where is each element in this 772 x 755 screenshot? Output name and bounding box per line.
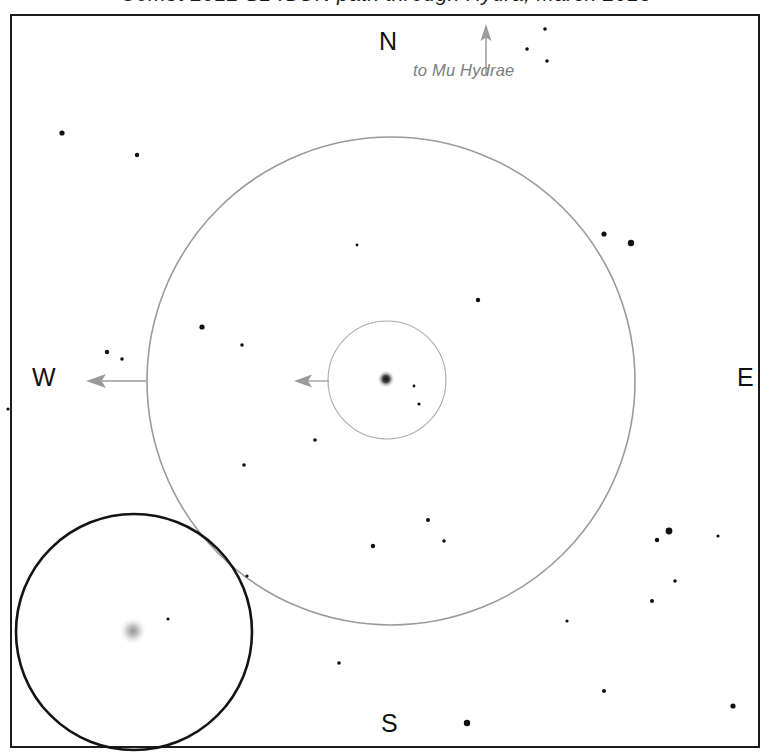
page-title: Comet 2012 S1 ISON path through Hydra, M… [121,0,652,6]
compass-label-east: E [737,363,754,392]
page-title-clip: Comet 2012 S1 ISON path through Hydra, M… [0,0,772,13]
star-chart-page: Comet 2012 S1 ISON path through Hydra, M… [0,0,772,755]
compass-label-south: S [381,709,398,738]
chart-frame [10,14,760,748]
motion-direction-label: to Mu Hydrae [413,61,514,80]
compass-label-north: N [379,27,398,56]
compass-label-west: W [32,363,56,392]
